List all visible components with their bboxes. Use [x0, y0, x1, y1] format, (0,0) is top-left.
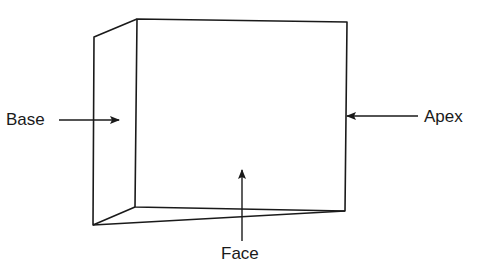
prism-drawing: [0, 0, 477, 273]
apex-label: Apex: [424, 108, 463, 125]
base-label: Base: [6, 111, 45, 128]
bottom-edge: [93, 211, 345, 225]
front-face: [135, 19, 347, 211]
base-side: [93, 19, 137, 225]
face-label: Face: [221, 245, 259, 262]
prism-outline: [93, 19, 347, 225]
prism-diagram: Base Apex Face: [0, 0, 477, 273]
